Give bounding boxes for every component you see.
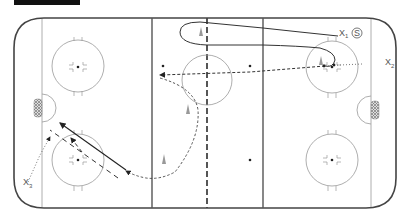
svg-text:3: 3	[29, 183, 33, 189]
cone-icon	[186, 104, 190, 114]
left-crease	[42, 94, 56, 122]
puck	[323, 65, 326, 68]
x3-movement	[28, 137, 50, 182]
player-x2: X 2	[385, 57, 395, 69]
player-x3: X 3	[23, 177, 33, 189]
puck	[333, 64, 336, 67]
svg-text:1: 1	[345, 33, 349, 39]
pass-path-2	[60, 123, 126, 170]
left-net	[34, 99, 42, 117]
faceoff-circle-left-top	[52, 37, 104, 96]
right-net	[371, 101, 379, 119]
player-x1: X 1	[339, 28, 349, 39]
shooter-badge: S	[352, 28, 362, 38]
hockey-rink-diagram: X 1 S X 2 X 3	[0, 0, 411, 220]
skate-path-x1	[180, 22, 338, 66]
faceoff-circle-right-top	[306, 37, 358, 98]
cone-icon	[199, 27, 203, 36]
svg-text:2: 2	[391, 63, 395, 69]
rink-boards	[14, 18, 396, 208]
faceoff-circle-left-bottom	[52, 130, 104, 191]
cone-icon	[162, 154, 166, 164]
x3-arrow-short	[71, 138, 82, 152]
neutral-dot	[249, 159, 252, 162]
neutral-dot	[249, 65, 252, 68]
cone-icon	[319, 56, 323, 65]
pass-path-1	[160, 66, 325, 75]
neutral-dot	[162, 65, 165, 68]
skate-path-curve	[126, 78, 198, 178]
svg-text:S: S	[354, 28, 360, 38]
right-crease	[357, 96, 371, 124]
faceoff-circle-right-bottom	[306, 130, 358, 191]
center-faceoff-circle	[182, 55, 232, 105]
shot-path	[50, 130, 118, 178]
